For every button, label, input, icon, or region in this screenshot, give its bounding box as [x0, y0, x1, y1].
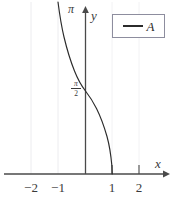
arccos-plot-figure: π π 2 y x −2 −1 1 2 A — [0, 0, 174, 203]
pi-over-2-numerator: π — [68, 80, 84, 88]
x-axis-label: x — [155, 157, 161, 170]
legend: A — [112, 14, 165, 38]
y-axis-arrowhead — [82, 6, 89, 13]
x-tick-label-2: 2 — [131, 181, 147, 194]
x-tick-label-minus2: −2 — [21, 181, 41, 194]
pi-over-2-denominator: 2 — [68, 89, 84, 97]
legend-line-swatch — [123, 25, 143, 26]
legend-entry-A: A — [113, 15, 164, 37]
x-axis — [4, 165, 170, 177]
y-tick-label-pi: π — [68, 3, 74, 15]
legend-entry-label: A — [147, 20, 155, 33]
x-axis-arrowhead — [163, 171, 170, 178]
x-tick-label-1: 1 — [104, 181, 120, 194]
y-tick-label-pi-over-2: π 2 — [68, 80, 84, 98]
x-tick-label-minus1: −1 — [48, 181, 68, 194]
y-axis-label: y — [91, 9, 97, 22]
